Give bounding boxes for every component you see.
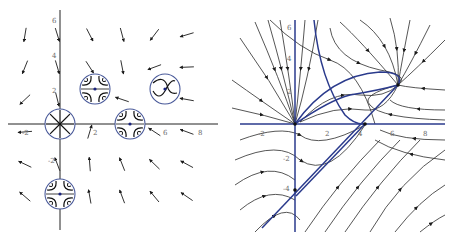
streamline bbox=[370, 150, 445, 232]
equilibrium-point bbox=[293, 122, 297, 126]
streamline bbox=[340, 22, 398, 85]
separatrix bbox=[296, 124, 365, 196]
equilibrium-circle-0 bbox=[45, 109, 75, 139]
x-tick-4: 4 bbox=[358, 130, 363, 138]
y-tick-6: 6 bbox=[52, 17, 57, 25]
x-tick-6: 6 bbox=[163, 129, 168, 137]
x-tick-2: 2 bbox=[325, 130, 329, 138]
x-tick-2: 2 bbox=[93, 129, 97, 137]
streamline bbox=[232, 80, 295, 124]
phase-portrait-plot: -2 2 4 6 8 6 4 2 -2 -4 bbox=[225, 0, 451, 238]
equilibrium-circles bbox=[45, 74, 180, 209]
direction-field-panel: -2 2 6 8 6 4 2 -2 bbox=[0, 0, 225, 238]
streamline bbox=[395, 185, 445, 232]
y-tick-4: 4 bbox=[52, 52, 57, 60]
equilibrium-circle-1 bbox=[80, 74, 110, 104]
equilibrium-point bbox=[396, 83, 400, 87]
streamlines bbox=[232, 18, 445, 232]
streamline bbox=[232, 108, 295, 124]
y-tick-neg2: -2 bbox=[48, 157, 55, 165]
x-tick-6: 6 bbox=[390, 130, 395, 138]
y-tick-2: 2 bbox=[287, 88, 291, 96]
streamline bbox=[300, 85, 398, 122]
equilibrium-circle-2 bbox=[115, 109, 145, 139]
equilibrium-circle-3 bbox=[150, 74, 180, 104]
x-tick-neg2: -2 bbox=[22, 129, 29, 137]
direction-arrows bbox=[18, 28, 194, 204]
streamline bbox=[398, 25, 430, 85]
y-tick-neg2: -2 bbox=[283, 155, 290, 163]
equilibrium-point bbox=[363, 122, 367, 126]
streamline bbox=[360, 20, 398, 85]
y-tick-6: 6 bbox=[287, 24, 292, 32]
streamline bbox=[295, 20, 305, 124]
streamline bbox=[420, 215, 445, 232]
x-tick-neg2: -2 bbox=[258, 130, 265, 138]
y-tick-4: 4 bbox=[287, 55, 292, 63]
streamline bbox=[390, 100, 445, 110]
y-tick-neg4: -4 bbox=[283, 185, 290, 193]
phase-portrait-panel: -2 2 4 6 8 6 4 2 -2 -4 bbox=[225, 0, 451, 238]
streamline bbox=[368, 85, 445, 120]
x-tick-8: 8 bbox=[198, 129, 202, 137]
streamline bbox=[235, 171, 295, 185]
x-tick-8: 8 bbox=[423, 130, 427, 138]
streamline bbox=[300, 85, 398, 122]
streamline bbox=[255, 212, 300, 232]
equilibrium-point bbox=[293, 188, 297, 192]
equilibrium-circle-4 bbox=[45, 179, 75, 209]
streamline bbox=[398, 85, 445, 90]
separatrix bbox=[314, 20, 365, 124]
y-tick-2: 2 bbox=[52, 87, 56, 95]
streamline bbox=[305, 140, 380, 232]
direction-field-plot: -2 2 6 8 6 4 2 -2 bbox=[0, 0, 225, 238]
